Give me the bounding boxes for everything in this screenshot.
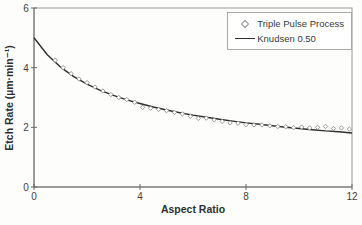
data-point-diamond	[331, 126, 335, 130]
x-tick-label: 0	[31, 191, 37, 202]
y-tick-label: 6	[23, 3, 29, 14]
x-axis-title: Aspect Ratio	[161, 203, 225, 215]
y-tick-label: 4	[23, 62, 29, 73]
data-point-diamond	[133, 100, 137, 104]
data-point-diamond	[339, 126, 343, 130]
data-point-diamond	[315, 125, 319, 129]
x-tick-label: 4	[137, 191, 143, 202]
data-point-diamond	[347, 127, 351, 131]
knudsen-fit-line	[34, 38, 352, 133]
y-axis-title: Etch Rate (µm·min⁻¹)	[3, 45, 15, 150]
data-point-diamond	[260, 123, 264, 127]
legend: Triple Pulse Process Knudsen 0.50	[227, 12, 352, 50]
data-point-diamond	[292, 125, 296, 129]
line-marker-icon	[233, 38, 257, 39]
diamond-marker-icon	[233, 21, 257, 27]
data-point-diamond	[109, 92, 113, 96]
data-point-diamond	[61, 65, 65, 69]
legend-label: Knudsen 0.50	[257, 33, 316, 44]
y-tick-label: 0	[23, 182, 29, 193]
x-tick-label: 12	[346, 191, 357, 202]
data-point-diamond	[125, 97, 129, 101]
data-point-diamond	[268, 124, 272, 128]
etch-rate-chart: 0246 04812 Etch Rate (µm·min⁻¹) Aspect R…	[0, 0, 362, 225]
data-point-diamond	[284, 125, 288, 129]
legend-item-knudsen: Knudsen 0.50	[233, 31, 344, 46]
data-point-diamond	[140, 105, 144, 109]
y-tick-label: 2	[23, 122, 29, 133]
x-tick-label: 8	[243, 191, 249, 202]
data-point-diamond	[323, 124, 327, 128]
legend-label: Triple Pulse Process	[257, 18, 344, 29]
data-point-diamond	[53, 58, 57, 62]
legend-item-triple-pulse-process: Triple Pulse Process	[233, 16, 344, 31]
data-point-diamond	[276, 124, 280, 128]
